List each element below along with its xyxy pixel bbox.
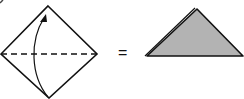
equals-sign: = — [118, 44, 127, 61]
result-triangle — [147, 9, 243, 56]
step-mark — [0, 0, 3, 3]
fold-diagram: = — [0, 0, 244, 99]
diamond-square — [1, 6, 97, 98]
